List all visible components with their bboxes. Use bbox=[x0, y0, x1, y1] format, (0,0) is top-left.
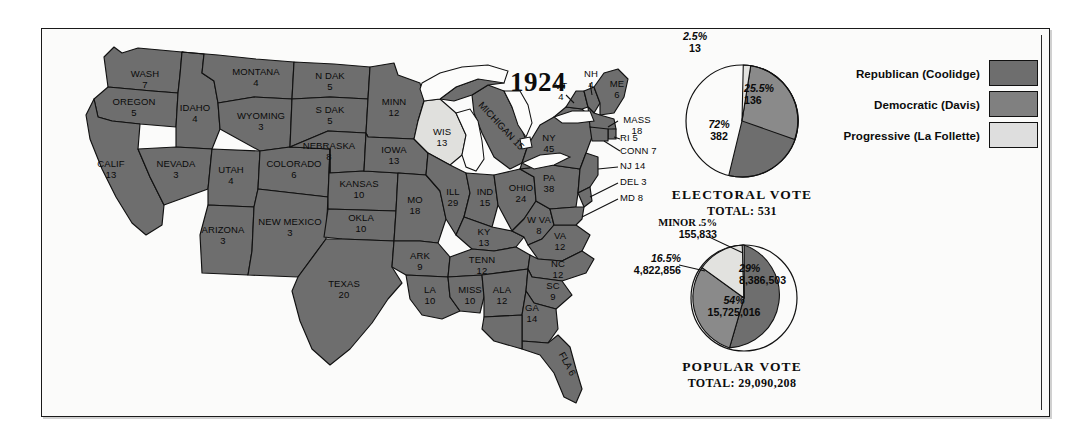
legend-label: Democratic (Davis) bbox=[874, 98, 980, 111]
title-line-1: ELECTORAL VOTE bbox=[637, 187, 847, 203]
slice-percent: 25.5% bbox=[744, 83, 808, 95]
legend-label: Progressive (La Follette) bbox=[843, 129, 980, 142]
state-shape-conn bbox=[590, 127, 608, 141]
legend-item-republican[interactable]: Republican (Coolidge) bbox=[832, 60, 1038, 86]
slice-percent: 16.5% bbox=[569, 253, 681, 265]
slice-value: 4,822,856 bbox=[569, 265, 681, 277]
legend-divider bbox=[1041, 35, 1042, 410]
electoral-pie-chart: 2.5% 13 25.5% 136 72% 382 bbox=[682, 61, 802, 185]
slice-percent: 2.5% bbox=[660, 31, 730, 43]
popular-label-republican: 54% 15,725,016 bbox=[681, 295, 787, 318]
slice-value: 8,386,503 bbox=[739, 275, 835, 287]
state-shape-ark bbox=[392, 241, 450, 277]
slice-value: 382 bbox=[692, 131, 746, 143]
popular-vote-title: POPULAR VOTE TOTAL: 29,090,208 bbox=[637, 359, 847, 391]
election-map-figure: WASH 7 OREGON 5 CALIF 13 IDAHO 4 NEVADA … bbox=[0, 0, 1089, 441]
state-shape-fla bbox=[522, 335, 582, 403]
figure-frame: WASH 7 OREGON 5 CALIF 13 IDAHO 4 NEVADA … bbox=[41, 28, 1050, 417]
legend-label: Republican (Coolidge) bbox=[856, 67, 980, 80]
slice-value: 136 bbox=[744, 95, 808, 107]
legend-swatch-democratic bbox=[989, 91, 1038, 117]
state-shape-utah bbox=[208, 149, 260, 207]
us-map: WASH 7 OREGON 5 CALIF 13 IDAHO 4 NEVADA … bbox=[42, 29, 642, 416]
electoral-vote-title: ELECTORAL VOTE TOTAL: 531 bbox=[637, 187, 847, 219]
legend-swatch-republican bbox=[989, 60, 1038, 86]
state-shape-wyoming bbox=[218, 97, 292, 151]
popular-label-democratic: 29% 8,386,503 bbox=[739, 263, 835, 286]
slice-percent: 29% bbox=[739, 263, 835, 275]
state-shape-ala bbox=[482, 269, 528, 317]
vote-charts: 2.5% 13 25.5% 136 72% 382 ELECTORAL VOTE… bbox=[607, 29, 832, 416]
popular-pie-chart: MINOR .5% 155,833 16.5% 4,822,856 29% 8,… bbox=[687, 241, 801, 359]
slice-percent: 72% bbox=[692, 119, 746, 131]
state-shape-wash bbox=[104, 47, 182, 93]
map-year-title: 1924 bbox=[478, 67, 598, 98]
slice-value: 13 bbox=[660, 43, 730, 55]
popular-label-progressive: 16.5% 4,822,856 bbox=[569, 253, 681, 276]
popular-label-minor: MINOR .5% 155,833 bbox=[577, 217, 717, 241]
state-shape-fla-panhandle bbox=[482, 315, 522, 349]
state-shape-colorado bbox=[258, 147, 330, 197]
state-shape-arizona bbox=[200, 205, 254, 275]
legend-swatch-progressive bbox=[989, 122, 1038, 148]
slice-percent: 54% bbox=[681, 295, 787, 307]
title-line-2: TOTAL: 29,090,208 bbox=[637, 376, 847, 391]
slice-value: 155,833 bbox=[577, 229, 717, 241]
legend-item-progressive[interactable]: Progressive (La Follette) bbox=[832, 122, 1038, 148]
popular-minor-leader bbox=[709, 237, 753, 257]
state-shape-ndak bbox=[292, 62, 370, 99]
electoral-label-progressive: 2.5% 13 bbox=[660, 31, 730, 54]
state-shape-minn bbox=[366, 63, 424, 139]
electoral-label-democratic: 25.5% 136 bbox=[744, 83, 808, 106]
map-legend: Republican (Coolidge) Democratic (Davis)… bbox=[832, 29, 1048, 416]
legend-item-democratic[interactable]: Democratic (Davis) bbox=[832, 91, 1038, 117]
electoral-label-republican: 72% 382 bbox=[692, 119, 746, 142]
popular-prog-leader bbox=[679, 263, 709, 275]
slice-value: 15,725,016 bbox=[681, 307, 787, 319]
title-line-1: POPULAR VOTE bbox=[637, 359, 847, 375]
state-shape-okla bbox=[324, 209, 396, 241]
lake-stclair bbox=[520, 137, 532, 149]
